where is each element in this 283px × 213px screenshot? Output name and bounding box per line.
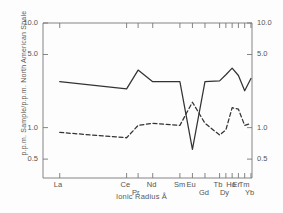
- x-tick-label-eu: Eu: [186, 180, 195, 189]
- series-dashed-curve: [60, 102, 251, 138]
- x-tick-label-ce: Ce: [121, 180, 131, 189]
- x-tick-label-la: La: [54, 180, 62, 189]
- x-axis-title: Ionic Radius Å: [0, 192, 283, 201]
- x-tick-label-nd: Nd: [147, 180, 157, 189]
- ree-spider-diagram: p.p.m. Sample/p.p.m. North American Shal…: [0, 0, 283, 213]
- plot-frame: [43, 23, 252, 178]
- x-tick-label-sm: Sm: [174, 180, 185, 189]
- series-solid-curve: [60, 68, 251, 149]
